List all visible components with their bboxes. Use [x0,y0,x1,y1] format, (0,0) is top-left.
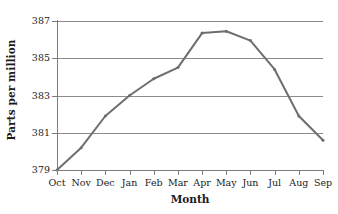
y-tick-label: 379 [20,164,50,175]
y-tick-mark [52,58,57,59]
x-tick-mark [250,170,251,175]
x-tick-mark [275,170,276,175]
x-tick-mark [81,170,82,175]
x-tick-mark [154,170,155,175]
x-tick-mark [202,170,203,175]
y-tick-mark [52,133,57,134]
x-tick-mark [323,170,324,175]
y-axis-line [57,20,58,171]
gridline-y [57,58,323,59]
line-chart: Parts per million Month 379381383385387O… [0,0,338,214]
x-axis-line [57,170,323,171]
x-axis-title: Month [57,193,323,205]
x-tick-mark [226,170,227,175]
plot-area [57,21,323,170]
x-tick-mark [178,170,179,175]
y-tick-label: 383 [20,90,50,101]
gridline-y [57,21,323,22]
y-tick-label: 385 [20,52,50,63]
y-tick-mark [52,96,57,97]
x-tick-label: Sep [303,177,338,188]
x-tick-mark [299,170,300,175]
y-axis-title: Parts per million [0,0,22,180]
y-tick-label: 381 [20,127,50,138]
x-tick-mark [57,170,58,175]
x-axis-title-label: Month [171,193,210,205]
y-axis-title-label: Parts per million [5,40,17,141]
y-tick-mark [52,21,57,22]
gridline-y [57,96,323,97]
x-tick-mark [130,170,131,175]
gridline-y [57,133,323,134]
y-tick-label: 387 [20,15,50,26]
x-tick-mark [105,170,106,175]
